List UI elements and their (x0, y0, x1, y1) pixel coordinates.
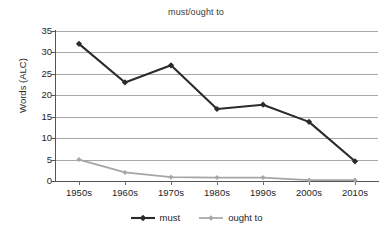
data-point-marker (352, 178, 357, 183)
legend-marker-icon (130, 213, 156, 223)
chart-legend: mustought to (0, 212, 392, 223)
legend-item-must[interactable]: must (130, 212, 181, 223)
y-axis-tick-mark (51, 181, 56, 182)
data-point-marker (306, 178, 311, 183)
y-axis-tick-mark (51, 74, 56, 75)
y-axis-tick-mark (51, 138, 56, 139)
legend-label: ought to (228, 212, 262, 223)
y-axis-tick-mark (51, 160, 56, 161)
legend-marker-icon (198, 213, 224, 223)
legend-label: must (160, 212, 181, 223)
data-point-marker (214, 175, 219, 180)
y-axis-tick-mark (51, 117, 56, 118)
data-point-marker (260, 102, 266, 108)
y-axis-tick-mark (51, 95, 56, 96)
y-axis-tick-mark (51, 52, 56, 53)
series-line-must (79, 44, 355, 161)
data-point-marker (168, 175, 173, 180)
data-point-marker (122, 170, 127, 175)
data-point-marker (260, 175, 265, 180)
line-chart: must/ought to Words (ALC) 05101520253035… (0, 0, 392, 239)
data-point-marker (76, 157, 81, 162)
y-axis-tick-mark (51, 31, 56, 32)
legend-item-ought-to[interactable]: ought to (198, 212, 262, 223)
series-layer (0, 0, 392, 239)
